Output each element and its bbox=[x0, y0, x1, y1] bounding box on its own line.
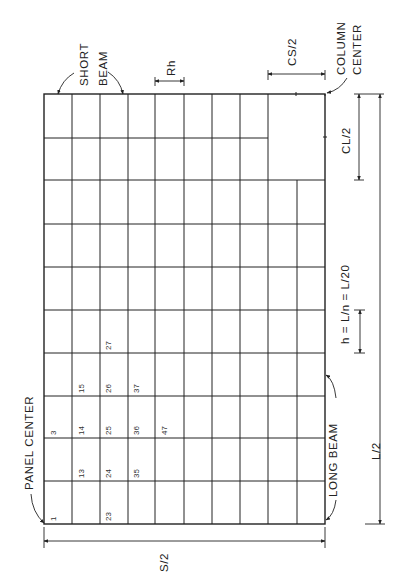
cl-half-dimension bbox=[354, 94, 384, 180]
short-beam-arc bbox=[58, 73, 74, 94]
column-center-leader bbox=[327, 78, 347, 93]
column-center-label-1: COLUMN bbox=[335, 22, 347, 75]
long-beam-leader-top bbox=[326, 375, 336, 398]
node-number: 35 bbox=[132, 469, 141, 478]
node-number: 14 bbox=[77, 426, 86, 435]
panel-center-leader bbox=[31, 494, 44, 523]
short-beam-label-2: BEAM bbox=[97, 51, 109, 86]
node-number: 15 bbox=[77, 384, 86, 393]
cs-half-label: CS/2 bbox=[286, 38, 298, 66]
node-number: 25 bbox=[104, 426, 113, 435]
node-number: 36 bbox=[132, 426, 141, 435]
s-half-dimension bbox=[44, 527, 325, 548]
column-center-label-2: CENTER bbox=[351, 24, 363, 75]
long-beam-label: LONG BEAM bbox=[327, 423, 339, 497]
node-number: 3 bbox=[49, 430, 58, 435]
panel-center-label: PANEL CENTER bbox=[23, 396, 35, 490]
node-number: 24 bbox=[104, 469, 113, 478]
node-numbers: 1 3 13 14 15 23 24 25 26 27 35 36 37 47 bbox=[49, 341, 169, 521]
short-beam-arc-2 bbox=[108, 72, 123, 94]
h-formula-label: h = L/n = L/20 bbox=[339, 265, 351, 344]
node-number: 23 bbox=[104, 512, 113, 521]
slab-grid-diagram: SHORT BEAM Rh CS/2 COLUMN CENTER CL/2 L/… bbox=[0, 0, 409, 587]
h-dimension bbox=[354, 310, 365, 353]
node-number: 1 bbox=[49, 516, 58, 521]
node-number: 37 bbox=[132, 384, 141, 393]
rh-label: Rh bbox=[165, 60, 177, 76]
node-number: 27 bbox=[104, 341, 113, 350]
cl-half-label: CL/2 bbox=[340, 127, 352, 154]
node-number: 13 bbox=[77, 469, 86, 478]
grid bbox=[44, 92, 327, 524]
node-number: 47 bbox=[160, 426, 169, 435]
node-number: 26 bbox=[104, 384, 113, 393]
l-half-label: L/2 bbox=[370, 442, 382, 460]
rh-dimension bbox=[155, 77, 184, 86]
short-beam-label-1: SHORT bbox=[78, 43, 90, 86]
short-beam-annotation: SHORT BEAM bbox=[58, 43, 123, 94]
s-half-label: S/2 bbox=[158, 553, 170, 572]
long-beam-leader-bottom bbox=[326, 500, 336, 520]
cs-half-dimension bbox=[268, 70, 325, 80]
